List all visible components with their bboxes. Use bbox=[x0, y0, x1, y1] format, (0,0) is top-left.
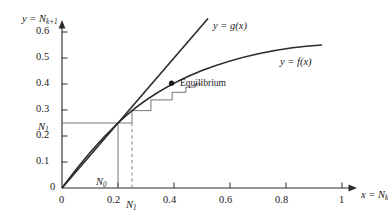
x-tick-label-0.8: 0.8 bbox=[275, 195, 288, 206]
y-tick-label-N1: N1 bbox=[38, 117, 49, 134]
x-label-N0: N0 bbox=[96, 172, 107, 189]
y-axis-title: y = Nk+1 bbox=[22, 14, 58, 26]
x-tick-label-N1: N1 bbox=[126, 195, 137, 212]
y-tick-label-0.6: 0.6 bbox=[36, 26, 49, 37]
x-axis-title: x = Nk bbox=[361, 190, 388, 202]
curve-g bbox=[62, 19, 208, 189]
x-tick-label-1: 1 bbox=[339, 195, 344, 206]
equilibrium-label: Equilibrium bbox=[180, 79, 226, 89]
y-tick-label-0: 0 bbox=[50, 182, 55, 193]
equilibrium-dot bbox=[169, 81, 174, 86]
y-axis-group bbox=[59, 20, 68, 188]
figure-cobweb-plot: y = Nk+1 0.6 0.5 0.4 0.3 0.2 0.1 0 N1 0 … bbox=[0, 0, 388, 219]
x-tick-label-0: 0 bbox=[59, 195, 64, 206]
line-g-of-x bbox=[62, 19, 208, 189]
y-tick-label-0.5: 0.5 bbox=[36, 52, 49, 63]
y-tick-label-0.1: 0.1 bbox=[36, 156, 49, 167]
x-tick-label-0.6: 0.6 bbox=[219, 195, 232, 206]
curve-label-f: y = f(x) bbox=[280, 57, 312, 68]
plot-canvas bbox=[0, 0, 388, 219]
y-axis-arrowhead bbox=[59, 20, 66, 29]
y-tick-label-0.3: 0.3 bbox=[36, 104, 49, 115]
x-axis-arrowhead bbox=[349, 185, 358, 192]
y-tick-label-0.4: 0.4 bbox=[36, 78, 49, 89]
x-tick-label-0.2: 0.2 bbox=[107, 195, 120, 206]
equilibrium-point-group bbox=[169, 81, 174, 86]
curve-label-g: y = g(x) bbox=[213, 21, 247, 32]
x-tick-label-0.4: 0.4 bbox=[163, 195, 176, 206]
